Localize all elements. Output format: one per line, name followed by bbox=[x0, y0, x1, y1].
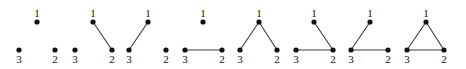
graph-vertex-1 bbox=[423, 19, 428, 24]
graph-vertex-2 bbox=[441, 47, 446, 52]
vertex-label-1: 1 bbox=[420, 8, 432, 19]
graph-vertex-3 bbox=[404, 47, 409, 52]
graph-8: 132 bbox=[0, 0, 466, 69]
graph-edge-3-1 bbox=[407, 22, 426, 50]
vertex-label-3: 3 bbox=[401, 54, 413, 65]
vertex-label-2: 2 bbox=[438, 54, 450, 65]
graph-canvas bbox=[0, 0, 466, 69]
graph-edge-1-2 bbox=[426, 22, 444, 50]
labeled-graphs-figure: 132132132132132132132132 bbox=[0, 0, 466, 69]
